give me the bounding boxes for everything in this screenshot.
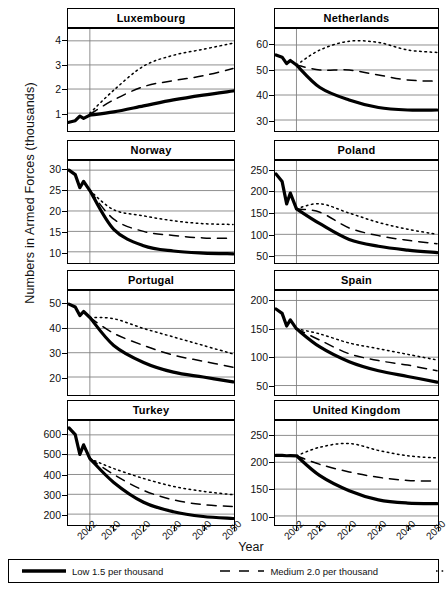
plot-canvas	[68, 29, 234, 131]
plot-area	[67, 28, 235, 132]
panel-title: Portugal	[67, 270, 235, 290]
y-tick-label: 2	[55, 84, 61, 94]
series-line-medium	[296, 65, 437, 81]
y-tick-label: 60	[256, 39, 268, 49]
panel-title: Norway	[67, 140, 235, 160]
y-tick-mark	[269, 70, 274, 71]
panel-united-kingdom: United Kingdom10015020025020022010202020…	[274, 400, 439, 526]
legend-swatch-high-icon	[428, 565, 447, 577]
y-axis-ticks: 200300400500600	[25, 420, 67, 526]
y-tick-mark	[62, 303, 67, 304]
y-tick-mark	[269, 300, 274, 301]
panel-title: Netherlands	[274, 8, 439, 28]
y-tick-label: 250	[250, 165, 268, 175]
panel-title-text: Norway	[131, 144, 172, 156]
series-line-high	[90, 317, 233, 353]
panel-luxembourg: Luxembourg1234	[67, 8, 235, 132]
series-line-low	[276, 309, 437, 382]
y-tick-label: 3	[55, 60, 61, 70]
y-tick-mark	[62, 253, 67, 254]
y-tick-mark	[269, 235, 274, 236]
plot-area	[274, 420, 439, 526]
panel-title: Luxembourg	[67, 8, 235, 28]
y-tick-mark	[62, 353, 67, 354]
y-tick-mark	[62, 495, 67, 496]
y-tick-mark	[269, 435, 274, 436]
y-tick-mark	[269, 357, 274, 358]
legend-item-medium: Medium 2.0 per thousand	[219, 565, 378, 577]
y-tick-label: 30	[49, 164, 61, 174]
panel-title: Poland	[274, 140, 439, 160]
y-tick-mark	[62, 378, 67, 379]
y-axis-ticks: 1234	[25, 28, 67, 132]
y-tick-label: 20	[49, 373, 61, 383]
y-tick-label: 150	[250, 484, 268, 494]
y-tick-label: 150	[250, 324, 268, 334]
y-tick-label: 200	[250, 457, 268, 467]
y-tick-mark	[269, 213, 274, 214]
series-line-medium	[296, 209, 437, 244]
y-tick-mark	[62, 190, 67, 191]
y-tick-label: 4	[55, 35, 61, 45]
y-tick-label: 25	[49, 185, 61, 195]
y-tick-mark	[62, 169, 67, 170]
y-tick-label: 15	[49, 227, 61, 237]
series-line-medium	[90, 69, 233, 115]
y-tick-label: 500	[43, 449, 61, 459]
y-tick-mark	[62, 211, 67, 212]
panel-title-text: Portugal	[128, 274, 174, 286]
y-tick-label: 100	[250, 230, 268, 240]
series-line-low	[69, 170, 233, 254]
y-tick-mark	[269, 489, 274, 490]
plot-canvas	[68, 161, 234, 263]
y-tick-label: 200	[250, 186, 268, 196]
series-line-low	[69, 304, 233, 382]
y-tick-label: 100	[250, 512, 268, 522]
legend-item-high: High 2.5 per thousand	[428, 565, 447, 577]
y-axis-ticks: 20304050	[25, 290, 67, 396]
y-tick-label: 250	[250, 430, 268, 440]
series-line-low	[276, 55, 437, 110]
series-line-high	[90, 459, 233, 495]
y-tick-label: 50	[256, 251, 268, 261]
y-tick-label: 150	[250, 208, 268, 218]
y-tick-mark	[269, 170, 274, 171]
y-tick-label: 200	[43, 510, 61, 520]
y-tick-mark	[269, 256, 274, 257]
panel-spain: Spain50100150200	[274, 270, 439, 396]
y-tick-label: 400	[43, 470, 61, 480]
plot-canvas	[275, 291, 438, 395]
panel-poland: Poland50100150200250	[274, 140, 439, 264]
plot-canvas	[68, 421, 234, 525]
y-tick-mark	[62, 328, 67, 329]
panel-norway: Norway1015202530	[67, 140, 235, 264]
series-line-medium	[90, 459, 233, 507]
plot-canvas	[275, 161, 438, 263]
panel-turkey: Turkey2003004005006002002201020202030204…	[67, 400, 235, 526]
panel-title-text: Turkey	[133, 404, 169, 416]
panel-title: Turkey	[67, 400, 235, 420]
y-tick-mark	[269, 44, 274, 45]
plot-canvas	[275, 421, 438, 525]
y-tick-mark	[62, 434, 67, 435]
y-tick-mark	[62, 475, 67, 476]
panel-netherlands: Netherlands30405060	[274, 8, 439, 132]
gridlines	[275, 421, 438, 525]
y-axis-ticks: 30405060	[232, 28, 274, 132]
y-tick-label: 40	[256, 90, 268, 100]
plot-area	[274, 290, 439, 396]
panel-title-text: United Kingdom	[313, 404, 401, 416]
y-tick-mark	[62, 232, 67, 233]
y-tick-mark	[269, 95, 274, 96]
legend-label-medium: Medium 2.0 per thousand	[270, 566, 378, 577]
y-tick-label: 20	[49, 206, 61, 216]
series-line-high	[90, 191, 233, 225]
plot-area	[67, 420, 235, 526]
panel-title: Spain	[274, 270, 439, 290]
y-tick-label: 600	[43, 429, 61, 439]
panel-title-text: Spain	[341, 274, 372, 286]
series-line-high	[296, 204, 437, 235]
y-tick-mark	[62, 40, 67, 41]
y-tick-label: 40	[49, 323, 61, 333]
plot-area	[67, 160, 235, 264]
